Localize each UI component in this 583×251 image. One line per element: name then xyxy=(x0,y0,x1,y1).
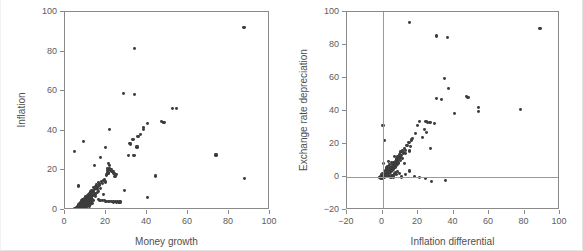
data-point xyxy=(429,147,432,150)
data-point xyxy=(440,98,443,101)
data-point xyxy=(403,162,406,165)
data-point xyxy=(139,133,142,136)
y-tick-label: 100 xyxy=(306,7,339,16)
data-point xyxy=(430,180,433,183)
x-tick-label: 100 xyxy=(261,217,276,226)
data-point xyxy=(435,34,438,37)
data-point xyxy=(131,138,134,141)
y-tick-mark xyxy=(342,44,346,45)
y-tick-mark xyxy=(342,176,346,177)
x-tick-mark xyxy=(146,210,147,214)
data-point xyxy=(433,122,436,125)
data-point xyxy=(127,154,130,157)
data-point xyxy=(123,189,126,192)
y-tick-mark xyxy=(60,11,64,12)
data-point xyxy=(214,153,217,156)
data-point xyxy=(175,107,178,110)
data-point xyxy=(133,47,136,50)
x-tick-label: 100 xyxy=(551,217,566,226)
data-point xyxy=(444,179,447,182)
data-point xyxy=(93,164,96,167)
horizontal-zero-reference-line xyxy=(347,177,558,178)
x-tick-mark xyxy=(382,210,383,214)
x-tick-mark xyxy=(187,210,188,214)
data-point xyxy=(146,196,149,199)
data-point xyxy=(77,207,80,208)
x-tick-label: 60 xyxy=(483,217,493,226)
x-tick-label: 40 xyxy=(447,217,457,226)
y-tick-label: 20 xyxy=(306,139,339,148)
x-tick-label: 0 xyxy=(61,217,66,226)
x-tick-mark xyxy=(105,210,106,214)
data-point xyxy=(425,131,428,134)
data-point xyxy=(133,93,136,96)
x-tick-mark xyxy=(453,210,454,214)
y-tick-mark xyxy=(342,77,346,78)
data-point xyxy=(105,173,108,176)
x-tick-mark xyxy=(64,210,65,214)
data-point xyxy=(113,175,116,178)
data-point xyxy=(416,124,419,127)
scatter-panel-money-growth-inflation: 020406080100020406080100 Money growth In… xyxy=(1,0,293,251)
y-tick-label: 100 xyxy=(24,7,57,16)
data-point xyxy=(409,145,412,148)
data-point xyxy=(104,146,107,149)
x-tick-mark xyxy=(559,210,560,214)
x-tick-label: 20 xyxy=(412,217,422,226)
vertical-zero-reference-line xyxy=(383,12,384,208)
x-tick-label: 40 xyxy=(141,217,151,226)
data-point xyxy=(73,150,76,153)
data-point xyxy=(443,77,446,80)
data-point xyxy=(408,169,411,172)
y-tick-label: −20 xyxy=(306,205,339,214)
plot-frame-left xyxy=(64,11,269,209)
data-point xyxy=(104,180,107,183)
x-tick-label: 60 xyxy=(182,217,192,226)
data-point xyxy=(404,152,407,155)
data-point xyxy=(446,36,449,39)
data-point xyxy=(102,193,105,196)
data-point xyxy=(466,96,469,99)
data-point xyxy=(435,97,438,100)
data-point xyxy=(142,128,145,131)
y-tick-mark xyxy=(60,51,64,52)
y-tick-mark xyxy=(60,169,64,170)
y-axis-title-right: Exchange rate depreciation xyxy=(298,49,309,171)
data-point xyxy=(108,164,111,167)
y-tick-mark xyxy=(342,11,346,12)
data-point xyxy=(162,121,165,124)
plot-frame-right xyxy=(346,11,559,209)
data-point xyxy=(99,156,102,159)
y-tick-label: 40 xyxy=(306,106,339,115)
y-tick-label: 60 xyxy=(24,86,57,95)
data-point xyxy=(453,112,456,115)
data-point xyxy=(146,122,149,125)
data-point xyxy=(243,177,246,180)
data-point xyxy=(538,27,541,30)
x-tick-label: −20 xyxy=(338,217,353,226)
x-tick-mark xyxy=(524,210,525,214)
x-tick-mark xyxy=(346,210,347,214)
data-point xyxy=(519,108,522,111)
data-point xyxy=(477,110,480,113)
y-tick-label: 80 xyxy=(24,46,57,55)
x-tick-label: 20 xyxy=(100,217,110,226)
data-point xyxy=(81,207,84,208)
data-point xyxy=(84,206,87,208)
data-point xyxy=(171,107,174,110)
data-point xyxy=(408,21,411,24)
y-tick-label: 40 xyxy=(24,125,57,134)
data-point xyxy=(414,132,417,135)
data-points-right xyxy=(347,12,558,208)
y-tick-mark xyxy=(342,143,346,144)
x-tick-mark xyxy=(269,210,270,214)
data-point xyxy=(136,135,139,138)
data-point xyxy=(154,174,157,177)
y-tick-mark xyxy=(60,90,64,91)
y-tick-label: 80 xyxy=(306,40,339,49)
x-tick-label: 0 xyxy=(379,217,384,226)
data-point xyxy=(129,142,132,145)
data-point xyxy=(477,106,480,109)
data-point xyxy=(242,26,245,29)
x-axis-title-right: Inflation differential xyxy=(411,236,495,247)
